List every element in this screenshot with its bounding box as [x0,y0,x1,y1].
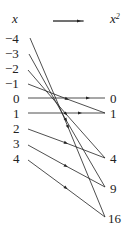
arrow-neg4-16 [30,38,105,217]
arrow-neg3-9 [29,54,105,187]
mapping-arrows [0,0,131,235]
arrow-3-9 [28,145,105,187]
arrow-neg1-1 [28,84,105,113]
arrow-2-4 [28,129,105,158]
arrow-neg2-4 [28,70,105,158]
